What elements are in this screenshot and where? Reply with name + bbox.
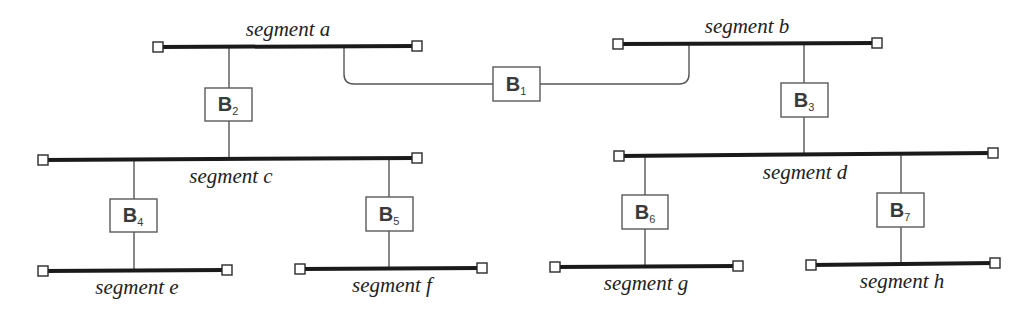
segment-e: segment e xyxy=(38,265,232,299)
bridge-b3-letter: B xyxy=(794,89,808,111)
bridge-b6: B6 xyxy=(622,195,668,229)
segment-e-line xyxy=(43,270,227,271)
segment-h-right-terminator xyxy=(990,258,1000,268)
segment-d-left-terminator xyxy=(614,151,624,161)
segment-b-label: segment b xyxy=(705,14,790,38)
segment-g: segment g xyxy=(550,261,743,295)
segment-d-right-terminator xyxy=(988,148,998,158)
bridge-b5-subscript: 5 xyxy=(393,215,399,227)
bridge-b1-subscript: 1 xyxy=(520,85,526,97)
bridge-b5-letter: B xyxy=(379,203,393,225)
segment-d-label: segment d xyxy=(763,160,848,184)
segment-f: segment f xyxy=(295,263,487,297)
segment-h: segment h xyxy=(806,258,1000,293)
segment-e-right-terminator xyxy=(222,265,232,275)
segment-g-left-terminator xyxy=(550,262,560,272)
segment-f-label: segment f xyxy=(352,273,435,297)
segment-h-label: segment h xyxy=(860,269,945,293)
bridge-b5: B5 xyxy=(366,197,413,231)
bridge-b7-letter: B xyxy=(890,199,904,221)
segment-e-left-terminator xyxy=(38,266,48,276)
segment-c-left-terminator xyxy=(38,155,48,165)
bridge-b1-letter: B xyxy=(506,73,520,95)
segment-d-line xyxy=(619,153,993,156)
segment-c: segment c xyxy=(38,153,422,188)
segment-g-right-terminator xyxy=(733,261,743,271)
bridge-b2-subscript: 2 xyxy=(232,105,238,117)
bridge-b7: B7 xyxy=(877,193,924,227)
segment-b-line xyxy=(618,43,877,44)
bridge-b2-letter: B xyxy=(218,93,232,115)
bridge-b1: B1 xyxy=(493,67,540,101)
segment-f-right-terminator xyxy=(477,263,487,273)
bridge-b3: B3 xyxy=(781,83,828,117)
bridge-b3-subscript: 3 xyxy=(808,101,814,113)
segment-a-line xyxy=(158,46,417,47)
bridge-b4-letter: B xyxy=(123,204,137,226)
segment-c-label: segment c xyxy=(189,164,273,188)
segment-b: segment b xyxy=(613,14,882,49)
segment-c-line xyxy=(43,158,417,160)
segment-a-left-terminator xyxy=(153,42,163,52)
segment-e-label: segment e xyxy=(95,275,178,299)
bridge-b6-letter: B xyxy=(635,201,649,223)
segment-h-line xyxy=(811,263,995,265)
segment-f-left-terminator xyxy=(295,264,305,274)
bridge-b7-subscript: 7 xyxy=(904,211,910,223)
segment-c-right-terminator xyxy=(412,153,422,163)
segment-a-right-terminator xyxy=(412,41,422,51)
segment-h-left-terminator xyxy=(806,260,816,270)
bridge-b4-subscript: 4 xyxy=(137,216,143,228)
segment-a-label: segment a xyxy=(246,17,331,41)
segment-a: segment a xyxy=(153,17,422,52)
bridge-b4: B4 xyxy=(110,199,157,232)
bridged-network-diagram: segment a segment b segment c segment d … xyxy=(0,0,1030,310)
segment-b-left-terminator xyxy=(613,39,623,49)
segment-f-line xyxy=(300,268,482,269)
segment-g-line xyxy=(555,266,738,267)
bridge-b6-subscript: 6 xyxy=(649,213,655,225)
segment-b-right-terminator xyxy=(872,38,882,48)
segment-d: segment d xyxy=(614,148,998,184)
bridge-b2: B2 xyxy=(205,88,252,121)
segment-g-label: segment g xyxy=(604,271,689,295)
